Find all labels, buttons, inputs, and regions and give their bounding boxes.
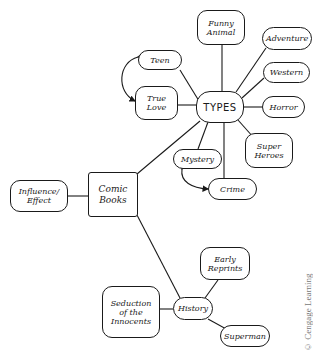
node-true-love: True Love [135, 86, 178, 120]
node-types: TYPES [196, 91, 244, 123]
node-comic-books: Comic Books [88, 172, 138, 217]
node-western: Western [263, 62, 310, 83]
node-mystery: Mystery [173, 149, 222, 169]
copyright-credit: © Cengage Learning [303, 240, 317, 352]
node-adventure: Adventure [262, 27, 312, 50]
node-superman: Superman [220, 325, 270, 347]
node-horror: Horror [262, 96, 305, 118]
node-early-reprints: Early Reprints [200, 247, 250, 280]
node-funny-animal: Funny Animal [197, 10, 245, 45]
node-influence-effect: Influence/ Effect [10, 180, 68, 212]
node-history: History [173, 297, 213, 320]
node-crime: Crime [208, 178, 257, 200]
mind-map-canvas: Comic Books Influence/ Effect TYPES Teen… [0, 0, 327, 358]
node-seduction-of-the-innocents: Seduction of the Innocents [102, 286, 160, 338]
node-teen: Teen [138, 50, 182, 70]
node-super-heroes: Super Heroes [245, 133, 293, 168]
